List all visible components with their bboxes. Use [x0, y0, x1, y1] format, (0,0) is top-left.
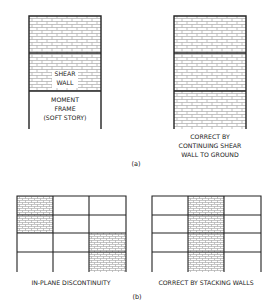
moment-frame-label: MOMENT: [51, 96, 79, 103]
shear-wall-label: SHEAR: [54, 70, 76, 77]
stacking-caption: CORRECT BY STACKING WALLS: [158, 279, 253, 286]
moment-frame-label: (SOFT STORY): [43, 114, 86, 121]
corrected-building: CORRECT BY CONTINUING SHEAR WALL TO GROU…: [174, 16, 246, 158]
shear-wall-label: WALL: [57, 79, 74, 86]
shear-wall-story-3: [29, 16, 101, 53]
shaded-wall-cell: [17, 215, 53, 233]
correction-caption: CORRECT BY: [190, 133, 230, 140]
stacked-walls-grid: CORRECT BY STACKING WALLS: [152, 196, 261, 286]
shaded-wall-cell: [17, 196, 53, 215]
moment-frame-label: FRAME: [54, 105, 75, 112]
in-plane-discontinuity-grid: IN-PLANE DISCONTINUITY: [17, 196, 126, 286]
correction-caption: WALL TO GROUND: [181, 151, 239, 158]
discontinuity-caption: IN-PLANE DISCONTINUITY: [31, 279, 110, 286]
shaded-wall-cell: [89, 252, 126, 272]
shaded-wall-cell: [89, 233, 126, 252]
panel-a-caption: (a): [131, 160, 140, 168]
correction-caption: CONTINUING SHEAR: [179, 142, 243, 149]
continuous-shear-wall: [174, 16, 246, 129]
panel-b-caption: (b): [132, 293, 141, 301]
soft-story-building: SHEAR WALL MOMENT FRAME (SOFT STORY): [29, 16, 101, 129]
structural-diagram: SHEAR WALL MOMENT FRAME (SOFT STORY) COR…: [0, 0, 273, 307]
stacked-wall-column: [188, 196, 224, 272]
